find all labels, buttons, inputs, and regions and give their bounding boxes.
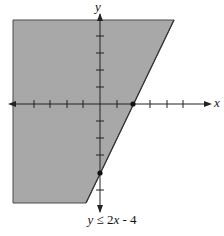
caption-mid: ≤ 2 — [93, 212, 113, 227]
caption-tail: - 4 — [119, 212, 136, 227]
shaded-region — [13, 20, 174, 203]
x-axis-arrow-right-icon — [204, 101, 212, 107]
y-intercept-point — [97, 170, 102, 175]
inequality-caption: y ≤ 2x - 4 — [0, 212, 224, 228]
y-axis-label: y — [95, 0, 101, 15]
inequality-graph — [0, 0, 224, 236]
x-intercept-point — [130, 101, 135, 106]
x-axis-arrow-left-icon — [8, 101, 16, 107]
x-axis-label: x — [214, 95, 220, 111]
